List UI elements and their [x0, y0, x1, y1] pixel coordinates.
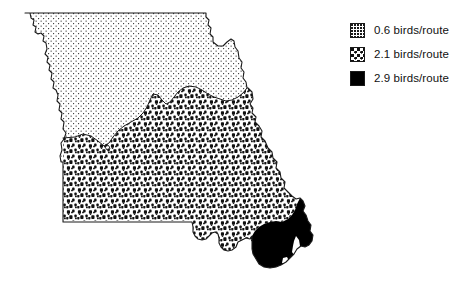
legend-item-1: 2.1 birds/route [350, 42, 475, 66]
legend-item-2: 2.9 birds/route [350, 66, 475, 90]
legend-swatch-solid-black-icon [350, 71, 365, 86]
missouri-map-svg [0, 0, 340, 290]
legend-label-1: 2.1 birds/route [374, 47, 449, 62]
map-area [0, 0, 340, 290]
legend-label-2: 2.9 birds/route [374, 71, 449, 86]
bird-density-figure: 0.6 birds/route 2.1 birds/route 2.9 bird… [0, 0, 475, 290]
density-legend: 0.6 birds/route 2.1 birds/route 2.9 bird… [350, 18, 475, 90]
legend-item-0: 0.6 birds/route [350, 18, 475, 42]
legend-label-0: 0.6 birds/route [374, 23, 449, 38]
legend-swatch-fine-stipple-icon [350, 23, 365, 38]
legend-swatch-coarse-stipple-icon [350, 47, 365, 62]
